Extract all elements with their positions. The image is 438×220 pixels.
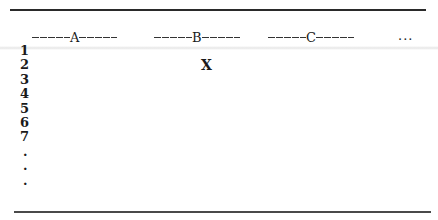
row-label: 1	[20, 44, 40, 58]
dash-line	[202, 37, 240, 38]
row-label: 4	[20, 87, 40, 101]
header-divider	[0, 46, 438, 50]
column-header-b: B	[154, 30, 240, 46]
more-columns-ellipsis: ...	[398, 28, 413, 43]
more-rows-dot: .	[20, 145, 40, 159]
top-rule	[10, 9, 426, 11]
row-label: 5	[20, 102, 40, 116]
dash-line	[316, 37, 354, 38]
column-label-a: A	[70, 30, 79, 45]
column-label-c: C	[306, 30, 316, 45]
dash-line	[154, 37, 192, 38]
row-label: 6	[20, 116, 40, 130]
dash-line	[32, 37, 70, 38]
bottom-rule	[14, 211, 431, 213]
dash-line	[268, 37, 306, 38]
row-label: 7	[20, 130, 40, 144]
dash-line	[79, 37, 117, 38]
row-label: 3	[20, 73, 40, 87]
column-header-a: A	[32, 30, 117, 46]
row-labels: 1 2 3 4 5 6 7 . . .	[20, 44, 40, 188]
row-label: 2	[20, 58, 40, 72]
cell-b2-mark: X	[201, 57, 212, 73]
more-rows-dot: .	[20, 159, 40, 173]
column-header-c: C	[268, 30, 354, 46]
more-rows-dot: .	[20, 174, 40, 188]
column-label-b: B	[192, 30, 202, 45]
